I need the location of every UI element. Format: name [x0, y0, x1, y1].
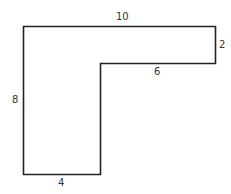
inner-horizontal-label: 6	[154, 67, 160, 77]
bottom-side-label: 4	[58, 178, 64, 188]
left-side-label: 8	[12, 95, 18, 105]
right-side-label: 2	[219, 40, 225, 50]
l-shape-outline	[24, 27, 216, 175]
top-side-label: 10	[116, 12, 129, 22]
l-shape-figure	[0, 0, 231, 194]
